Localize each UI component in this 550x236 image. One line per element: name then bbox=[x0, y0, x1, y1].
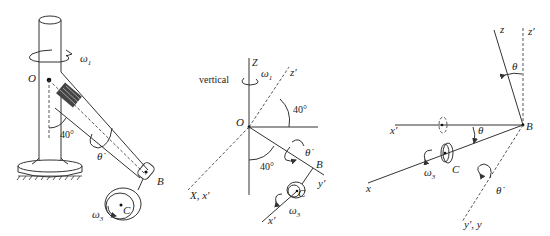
z-axis bbox=[494, 30, 523, 125]
angle-label: 40° bbox=[60, 129, 74, 140]
theta-dot-label: θ̇ bbox=[305, 146, 314, 158]
theta-dot-label: θ̇ bbox=[496, 184, 505, 196]
figure-canvas: ω1 O 40° θ̇ bbox=[0, 0, 550, 236]
theta-mid-label: θ bbox=[478, 124, 484, 136]
angle-arc bbox=[49, 118, 66, 128]
omega1-label: ω1 bbox=[261, 67, 272, 82]
disk-ghost-center bbox=[441, 124, 444, 127]
omega3-rotation-arrow bbox=[424, 150, 432, 160]
point-c-label: C bbox=[452, 163, 460, 175]
omega1-rotation-arrow bbox=[242, 78, 258, 85]
origin-label: O bbox=[28, 72, 36, 84]
y-axes-label: y′, y bbox=[463, 218, 482, 230]
omega1-label: ω1 bbox=[80, 52, 91, 67]
axes-panel: Z vertical ω1 z′ 40° O X, x′ 40° θ̇ B y′… bbox=[188, 57, 326, 226]
z-axis-label: Z bbox=[252, 57, 258, 68]
vertical-label: vertical bbox=[199, 74, 229, 85]
theta-dot-arrow-top bbox=[292, 140, 304, 146]
point-c-label: C bbox=[123, 204, 131, 216]
angle-arc-bottom bbox=[249, 146, 274, 160]
mechanism-panel: ω1 O 40° θ̇ bbox=[17, 16, 164, 223]
x-prime-label: x′ bbox=[389, 124, 398, 136]
z-prime-label: z′ bbox=[289, 66, 297, 78]
x-axis-dashed bbox=[188, 127, 249, 190]
angle-arc-top bbox=[280, 99, 290, 127]
x-axis-label: X, x′ bbox=[189, 189, 210, 201]
omega3-label: ω3 bbox=[289, 204, 301, 219]
z-prime-label: z′ bbox=[527, 25, 535, 37]
y-axis bbox=[462, 125, 523, 222]
point-b-label: B bbox=[316, 158, 323, 170]
y-prime-label: y′ bbox=[317, 177, 326, 189]
theta-arc-mid bbox=[473, 127, 475, 143]
base-plate bbox=[17, 158, 82, 180]
theta-dot-label: θ̇ bbox=[97, 150, 106, 162]
theta-top-label: θ bbox=[512, 60, 518, 72]
origin-label: O bbox=[236, 116, 244, 128]
point-b-label: B bbox=[526, 120, 533, 132]
link-b-c bbox=[302, 168, 313, 184]
omega1-rotation-arrow bbox=[29, 50, 72, 62]
joint-b bbox=[136, 161, 155, 190]
theta-dot-rotation-arrow bbox=[478, 164, 491, 178]
omega3-label: ω3 bbox=[92, 208, 104, 223]
point-b-label: B bbox=[157, 175, 164, 187]
angle-bottom-label: 40° bbox=[260, 161, 274, 172]
omega3-rotation-arrow bbox=[276, 194, 282, 202]
frame-b-panel: z′ z θ x′ x θ B C ω3 y′, y θ̇ bbox=[365, 23, 535, 230]
x-prime-label: x′ bbox=[267, 214, 276, 226]
ground-hatch bbox=[17, 176, 82, 180]
point-c-label: C bbox=[298, 187, 306, 199]
inclined-arm bbox=[49, 72, 148, 178]
z-label: z bbox=[499, 23, 505, 35]
x-label: x bbox=[365, 182, 371, 194]
angle-top-label: 40° bbox=[293, 104, 307, 115]
omega3-label: ω3 bbox=[424, 166, 436, 181]
spring-coil bbox=[56, 83, 82, 108]
